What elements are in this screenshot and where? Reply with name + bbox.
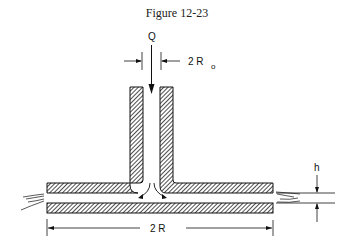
- gap-label: h: [314, 162, 320, 173]
- lower-plate: [47, 203, 273, 213]
- flow-label: Q: [148, 31, 156, 42]
- svg-text:o: o: [211, 62, 216, 71]
- plate-diameter-label: 2 R: [150, 223, 166, 234]
- upper-plate-right: [160, 87, 273, 193]
- right-outflow: [276, 192, 300, 202]
- left-outflow: [21, 194, 44, 210]
- inlet-diameter-label: 2 R: [188, 56, 204, 67]
- upper-plate-left: [47, 87, 143, 193]
- radial-flow-diagram: Q 2 R o h 2 R: [0, 0, 354, 251]
- flow-arrow-icon: [149, 84, 155, 94]
